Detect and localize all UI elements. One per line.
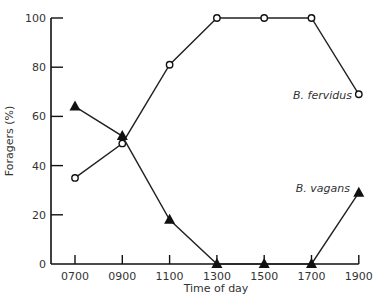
data-point-circle [261, 15, 267, 21]
data-point-circle [308, 15, 314, 21]
y-tick-label: 20 [32, 209, 46, 222]
x-tick-label: 0700 [61, 270, 89, 283]
y-tick-label: 100 [25, 12, 46, 25]
x-tick-label: 1900 [345, 270, 373, 283]
y-tick-label: 80 [32, 61, 46, 74]
data-point-triangle [70, 101, 81, 111]
data-point-triangle [259, 258, 270, 268]
y-tick-label: 60 [32, 110, 46, 123]
x-tick-label: 1100 [156, 270, 184, 283]
line-chart: 0204060801000700090011001300150017001900… [0, 0, 385, 308]
axes: 0204060801000700090011001300150017001900 [25, 12, 373, 283]
y-axis-title: Foragers (%) [3, 106, 16, 176]
series-label-b-vagans: B. vagans [296, 182, 350, 195]
x-axis-title: Time of day [183, 282, 249, 295]
data-point-circle [356, 91, 362, 97]
series-label-b-fervidus: B. fervidus [293, 89, 352, 102]
series-layer [70, 15, 365, 268]
data-point-circle [72, 175, 78, 181]
x-tick-label: 1700 [298, 270, 326, 283]
data-point-triangle [164, 214, 175, 224]
y-tick-label: 40 [32, 160, 46, 173]
data-point-triangle [353, 187, 364, 197]
data-point-circle [214, 15, 220, 21]
x-tick-label: 0900 [108, 270, 136, 283]
y-tick-label: 0 [39, 258, 46, 271]
data-point-triangle [117, 130, 128, 140]
x-tick-label: 1500 [250, 270, 278, 283]
data-point-triangle [306, 258, 317, 268]
data-point-circle [166, 62, 172, 68]
